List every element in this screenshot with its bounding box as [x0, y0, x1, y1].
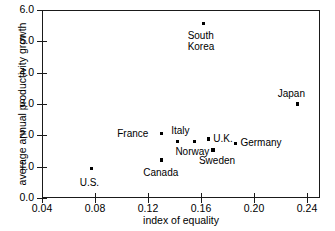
- data-point-marker: [160, 132, 163, 135]
- y-tick-label: 2.0: [8, 128, 34, 140]
- y-tick-mark: [37, 73, 47, 74]
- data-point-label: Italy: [171, 125, 189, 136]
- data-point-label: Canada: [143, 167, 178, 178]
- y-tick-mark: [37, 135, 47, 136]
- x-axis-label: index of equality: [42, 214, 320, 226]
- data-point-marker: [193, 140, 196, 143]
- data-point-label: Japan: [278, 88, 305, 99]
- data-point-label: Sweden: [199, 155, 235, 166]
- y-tick-label: 3.0: [8, 97, 34, 109]
- scatter-chart-figure: average annual productivity growth 0.01.…: [0, 0, 335, 231]
- y-tick-label: 5.0: [8, 34, 34, 46]
- y-tick-mark: [37, 10, 47, 11]
- data-point-marker: [90, 167, 93, 170]
- x-tick-label: 0.24: [287, 202, 327, 214]
- x-tick-label: 0.20: [234, 202, 274, 214]
- plot-area: [42, 10, 320, 198]
- data-point-label: France: [117, 128, 148, 139]
- data-point-marker: [160, 158, 163, 161]
- y-tick-mark: [37, 104, 47, 105]
- y-tick-mark: [37, 41, 47, 42]
- y-tick-mark: [37, 167, 47, 168]
- data-point-marker: [176, 140, 179, 143]
- data-point-label: U.S.: [80, 177, 99, 188]
- x-tick-label: 0.16: [181, 202, 221, 214]
- data-point-marker: [207, 137, 210, 140]
- x-tick-label: 0.08: [75, 202, 115, 214]
- data-point-label: South Korea: [188, 30, 215, 52]
- data-point-label: Germany: [240, 137, 281, 148]
- y-tick-label: 6.0: [8, 3, 34, 15]
- x-tick-label: 0.04: [22, 202, 62, 214]
- data-point-marker: [202, 22, 205, 25]
- y-tick-label: 4.0: [8, 66, 34, 78]
- data-point-marker: [211, 148, 214, 151]
- data-point-marker: [234, 142, 237, 145]
- y-tick-label: 1.0: [8, 160, 34, 172]
- data-point-marker: [296, 102, 299, 105]
- data-point-label: U.K.: [213, 133, 232, 144]
- x-tick-label: 0.12: [128, 202, 168, 214]
